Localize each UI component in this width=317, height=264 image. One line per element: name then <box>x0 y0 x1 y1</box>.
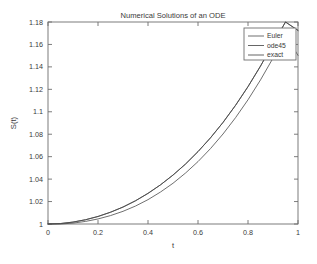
figure-canvas: Numerical Solutions of an ODE 00.20.40.6… <box>0 0 317 264</box>
y-tick-label: 1 <box>39 220 43 229</box>
chart-title: Numerical Solutions of an ODE <box>120 11 225 20</box>
y-tick-label: 1.08 <box>29 130 43 139</box>
legend[interactable]: Eulerode45exact <box>244 28 296 60</box>
y-tick-label: 1.14 <box>29 62 43 71</box>
x-tick-label: 0 <box>46 228 50 237</box>
y-axis-label: S(t) <box>9 116 18 129</box>
chart-svg: Numerical Solutions of an ODE 00.20.40.6… <box>0 0 317 264</box>
legend-label-euler: Euler <box>267 32 284 39</box>
legend-label-exact: exact <box>267 51 283 58</box>
y-tick-label: 1.04 <box>29 175 43 184</box>
x-tick-label: 0.6 <box>193 228 203 237</box>
y-tick-label: 1.06 <box>29 152 43 161</box>
y-tick-label: 1.16 <box>29 40 43 49</box>
y-tick-label: 1.18 <box>29 18 43 27</box>
y-tick-label: 1.02 <box>29 197 43 206</box>
x-tick-label: 0.8 <box>243 228 253 237</box>
y-tick-label: 1.1 <box>33 107 43 116</box>
y-tick-label: 1.12 <box>29 85 43 94</box>
legend-label-ode45: ode45 <box>267 42 286 49</box>
x-tick-label: 0.2 <box>93 228 103 237</box>
x-tick-label: 0.4 <box>143 228 153 237</box>
x-tick-label: 1 <box>296 228 300 237</box>
